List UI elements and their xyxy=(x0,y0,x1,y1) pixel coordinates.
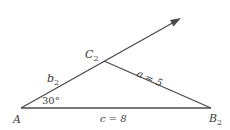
side-b2-label: b2 xyxy=(47,72,59,87)
side-c-label: c = 8 xyxy=(100,113,127,124)
vertex-a-label: A xyxy=(12,113,21,126)
side-a-label: a = 5 xyxy=(135,68,164,89)
triangle-diagram: C2 b2 a = 5 30° A c = 8 B2 xyxy=(0,0,230,130)
vertex-c2-label: C2 xyxy=(85,48,99,63)
vertex-b2-label: B2 xyxy=(208,112,222,127)
angle-a-label: 30° xyxy=(42,95,60,106)
arrowhead-icon xyxy=(170,18,181,27)
